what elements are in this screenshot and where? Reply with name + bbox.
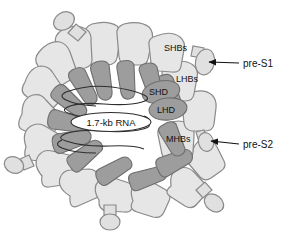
hbv-particle-diagram: 1.7-kb RNA SHBs LHBs SHD LHD MHBs pre-S1… <box>0 0 283 234</box>
shbs-label: SHBs <box>164 43 188 53</box>
pre-s-knob <box>100 214 120 230</box>
pre-s2-label: pre-S2 <box>243 139 273 150</box>
inner-subunit <box>117 61 135 100</box>
rna-label: 1.7-kb RNA <box>86 117 136 128</box>
pre-s-knob <box>2 154 27 177</box>
outer-subunit <box>117 23 153 65</box>
lhd-label: LHD <box>157 105 176 115</box>
figure-canvas: 1.7-kb RNA SHBs LHBs SHD LHD MHBs pre-S1… <box>0 0 283 234</box>
lhbs-label: LHBs <box>176 74 199 84</box>
pre-s1-label: pre-S1 <box>243 58 273 69</box>
shd-label: SHD <box>149 87 169 97</box>
mhbs-label: MHBs <box>166 134 191 144</box>
